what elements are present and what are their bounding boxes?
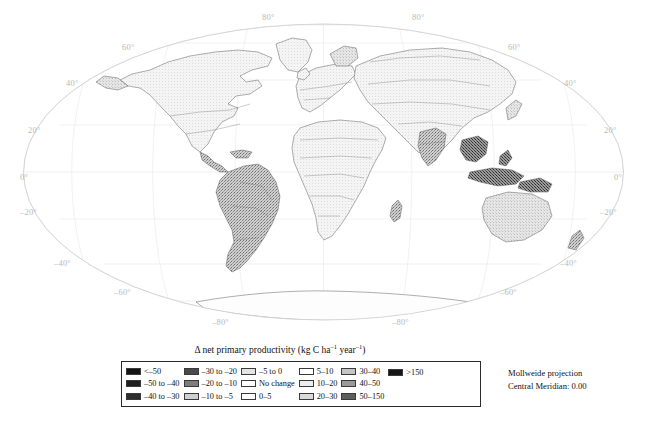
legend-swatch (388, 369, 403, 376)
legend-entry: 50–150 (341, 391, 384, 403)
legend-label: –30 to –20 (202, 367, 238, 376)
legend-label: 50–150 (359, 392, 384, 401)
legend-entry: 0–5 (241, 391, 295, 403)
legend-column: –30 to –20 –20 to –10 –10 to –5 (184, 365, 238, 403)
legend-label: –40 to –30 (144, 392, 180, 401)
legend-title-end: ) (362, 345, 365, 355)
landmass-southeast-asia (460, 136, 488, 162)
graticule-label: –20° (600, 207, 617, 217)
legend-label: –10 to –5 (202, 392, 233, 401)
landmass-central-america (200, 152, 228, 172)
legend-swatch (241, 380, 256, 387)
legend-label: –5 to 0 (259, 367, 282, 376)
legend-label: 20–30 (317, 392, 338, 401)
legend-swatch (341, 393, 356, 400)
landmass-caribbean (230, 150, 252, 158)
legend-swatch (299, 380, 314, 387)
landmass-japan (506, 100, 522, 120)
landmass-south-america (216, 164, 280, 272)
legend-column: >150 (388, 365, 423, 403)
graticule-label: –80° (212, 317, 229, 327)
landmass-north-america (120, 50, 272, 152)
legend-column: 30–40 40–50 50–150 (341, 365, 384, 403)
graticule-label: –40° (560, 258, 577, 268)
legend-label: <–50 (144, 367, 161, 376)
legend-column: 5–10 10–20 20–30 (299, 365, 338, 403)
legend-swatch (299, 393, 314, 400)
legend-swatch (184, 368, 199, 375)
legend-entry: 10–20 (299, 378, 338, 390)
legend-swatch (126, 368, 141, 375)
legend-entry: >150 (388, 366, 423, 378)
central-meridian: Central Meridian: 0.00 (508, 380, 587, 393)
legend-entry: –30 to –20 (184, 365, 238, 377)
legend-swatch (341, 380, 356, 387)
graticule-label: 20° (28, 125, 41, 135)
legend-swatch (241, 368, 256, 375)
legend-swatch (184, 380, 199, 387)
legend-swatch (241, 393, 256, 400)
landmass-indonesia (468, 168, 524, 186)
legend-entry: –50 to –40 (126, 378, 180, 390)
legend-column: <–50 –50 to –40 –40 to –30 (126, 365, 180, 403)
landmass-alaska (96, 76, 128, 90)
landmass-scandinavia (330, 46, 358, 66)
legend-title-mid: year (337, 345, 356, 355)
legend-columns: <–50 –50 to –40 –40 to –30 –30 to –20 (126, 365, 476, 403)
projection-name: Mollweide projection (508, 367, 587, 380)
figure-root: 80° 80° 60° 60° 40° 40° 20° 20° 0° 0° –2… (0, 0, 647, 426)
legend-label: 5–10 (317, 367, 334, 376)
graticule-label: –60° (500, 287, 517, 297)
map-svg (0, 0, 647, 330)
legend-label: 40–50 (359, 379, 380, 388)
graticule-label: 20° (604, 125, 617, 135)
graticule-label: –60° (114, 287, 131, 297)
legend-box: <–50 –50 to –40 –40 to –30 –30 to –20 (121, 361, 481, 407)
legend-entry: –40 to –30 (126, 391, 180, 403)
legend-title: Δ net primary productivity (kg C ha–1 ye… (0, 343, 560, 355)
graticule-label: 0° (20, 172, 28, 182)
projection-note: Mollweide projection Central Meridian: 0… (508, 367, 587, 392)
legend-entry: 5–10 (299, 365, 338, 377)
legend-swatch (126, 380, 141, 387)
legend-entry: –10 to –5 (184, 391, 238, 403)
legend-label: –50 to –40 (144, 379, 180, 388)
legend-swatch (126, 393, 141, 400)
legend-label: 10–20 (317, 379, 338, 388)
graticule-label: 80° (412, 12, 425, 22)
graticule-label: –20° (20, 207, 37, 217)
legend-entry: 40–50 (341, 378, 384, 390)
graticule-label: –80° (392, 317, 409, 327)
legend-swatch (184, 393, 199, 400)
graticule-label: 80° (262, 12, 275, 22)
legend-entry: –5 to 0 (241, 365, 295, 377)
graticule-label: 60° (122, 42, 135, 52)
legend-label: –20 to –10 (202, 379, 238, 388)
legend-entry: 20–30 (299, 391, 338, 403)
graticule-label: 40° (66, 78, 79, 88)
legend-entry: –20 to –10 (184, 378, 238, 390)
legend-entry: No change (241, 378, 295, 390)
legend-entry: <–50 (126, 365, 180, 377)
legend-entry: 30–40 (341, 365, 384, 377)
graticule-label: 0° (614, 172, 622, 182)
landmass-india (418, 128, 446, 166)
landmass-australia (482, 192, 552, 242)
graticule-label: 60° (508, 42, 521, 52)
legend-title-main: Δ net primary productivity (kg C ha (195, 345, 331, 355)
legend-label: 30–40 (359, 367, 380, 376)
legend-swatch (299, 368, 314, 375)
graticule-label: –40° (54, 258, 71, 268)
legend-label: 0–5 (259, 392, 271, 401)
landmass-greenland (276, 38, 312, 72)
legend-column: –5 to 0 No change 0–5 (241, 365, 295, 403)
land-layer (96, 38, 584, 320)
world-map: 80° 80° 60° 60° 40° 40° 20° 20° 0° 0° –2… (0, 0, 647, 330)
legend-label: >150 (406, 368, 423, 377)
landmass-antarctica (196, 291, 470, 321)
legend-label: No change (259, 379, 295, 388)
landmass-philippines (499, 150, 512, 166)
legend-swatch (341, 368, 356, 375)
graticule-label: 40° (564, 78, 577, 88)
landmass-new-guinea (518, 178, 552, 192)
